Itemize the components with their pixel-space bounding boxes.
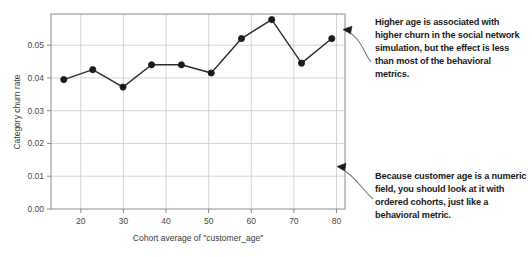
x-tick-label-5: 70	[289, 216, 299, 226]
data-point	[178, 62, 184, 68]
data-point	[329, 35, 335, 41]
x-tick-label-2: 40	[161, 216, 171, 226]
data-point	[61, 76, 67, 82]
y-axis-title: Category churn rate	[12, 74, 22, 149]
x-tick-label-0: 20	[76, 216, 86, 226]
data-point	[120, 84, 126, 90]
x-axis-title: Cohort average of "customer_age"	[133, 233, 263, 243]
data-point	[148, 62, 154, 68]
callout-numeric-field: Because customer age is a numeric field,…	[375, 170, 527, 222]
data-point	[208, 70, 214, 76]
x-tick-label-1: 30	[119, 216, 129, 226]
chart-canvas: 0.000.010.020.030.040.05 20304050607080 …	[0, 0, 360, 257]
y-tick-label-3: 0.03	[27, 106, 44, 116]
data-point	[90, 67, 96, 73]
x-tick-label-6: 80	[332, 216, 342, 226]
figure-root: 0.000.010.020.030.040.05 20304050607080 …	[0, 0, 532, 257]
y-tick-label-5: 0.05	[27, 40, 44, 50]
y-tick-label-0: 0.00	[27, 204, 44, 214]
data-point	[269, 16, 275, 22]
x-tick-label-4: 60	[247, 216, 257, 226]
line-chart: 0.000.010.020.030.040.05 20304050607080 …	[0, 0, 360, 257]
data-point	[298, 60, 304, 66]
y-axis: 0.000.010.020.030.040.05	[27, 40, 51, 214]
y-tick-label-2: 0.02	[27, 138, 44, 148]
y-tick-label-1: 0.01	[27, 171, 44, 181]
x-axis: 20304050607080	[76, 209, 341, 226]
x-tick-label-3: 50	[204, 216, 214, 226]
y-tick-label-4: 0.04	[27, 73, 44, 83]
data-point	[238, 35, 244, 41]
callout-higher-age: Higher age is associated with higher chu…	[375, 16, 527, 81]
plot-area-background	[51, 14, 345, 209]
